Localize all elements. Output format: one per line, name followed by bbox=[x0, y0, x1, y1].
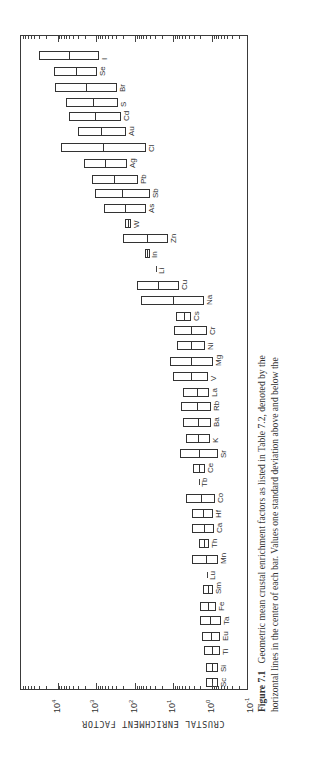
minor-tick bbox=[141, 686, 142, 689]
tick-label: 100 bbox=[205, 700, 216, 713]
element-label: Eu bbox=[222, 631, 230, 641]
minor-tick bbox=[25, 686, 26, 689]
bar-as bbox=[104, 204, 146, 213]
minor-tick bbox=[59, 36, 60, 39]
element-label: Rb bbox=[213, 400, 221, 410]
minor-tick bbox=[224, 686, 225, 689]
caption-text-2: horizontal lines in the center of each b… bbox=[269, 357, 280, 712]
minor-tick bbox=[139, 686, 140, 689]
bar-sr bbox=[180, 449, 218, 458]
bar-au bbox=[78, 127, 126, 136]
minor-tick bbox=[155, 36, 156, 39]
minor-tick bbox=[146, 36, 147, 39]
major-tick bbox=[96, 36, 97, 42]
bar-mean-line bbox=[69, 52, 70, 59]
minor-tick bbox=[116, 36, 117, 39]
minor-tick bbox=[46, 36, 47, 39]
bar-mean-line bbox=[103, 144, 104, 151]
bar-pb bbox=[92, 175, 138, 184]
minor-tick bbox=[200, 36, 201, 39]
bar-cr bbox=[174, 326, 207, 335]
major-tick bbox=[173, 683, 174, 689]
element-label: Se bbox=[99, 66, 107, 76]
minor-tick bbox=[102, 36, 103, 39]
minor-tick bbox=[150, 686, 151, 689]
minor-tick bbox=[102, 686, 103, 689]
element-label: Cs bbox=[193, 311, 201, 321]
chart-plot-area: ScSiTiEuTaFeSmLuMnThCaHfCoTbCeSrKBaRbLaV… bbox=[20, 35, 248, 690]
element-label: I bbox=[101, 57, 109, 59]
element-label: Mn bbox=[220, 552, 228, 563]
bar-mean-line bbox=[201, 495, 202, 502]
element-label: Ti bbox=[222, 648, 230, 654]
element-label: Au bbox=[128, 126, 136, 136]
minor-tick bbox=[78, 686, 79, 689]
minor-tick bbox=[194, 686, 195, 689]
minor-tick bbox=[108, 686, 109, 689]
minor-tick bbox=[232, 686, 233, 689]
element-label: Zn bbox=[170, 233, 178, 242]
bar-ce bbox=[193, 464, 205, 473]
bar-mean-line bbox=[86, 84, 87, 91]
bar-mean-line bbox=[114, 176, 115, 183]
minor-tick bbox=[39, 686, 40, 689]
bar-mean-line bbox=[173, 297, 174, 304]
tick-label: 104 bbox=[51, 700, 62, 713]
minor-tick bbox=[175, 686, 176, 689]
minor-tick bbox=[31, 686, 32, 689]
element-label: W bbox=[133, 220, 141, 228]
minor-tick bbox=[150, 36, 151, 39]
element-label: In bbox=[151, 251, 159, 258]
minor-tick bbox=[108, 36, 109, 39]
bar-mean-line bbox=[210, 617, 211, 624]
minor-tick bbox=[61, 36, 62, 39]
caption-text-1: Geometric mean crustal enrichment factor… bbox=[256, 355, 267, 663]
minor-tick bbox=[189, 36, 190, 39]
minor-tick bbox=[85, 686, 86, 689]
bar-mean-line bbox=[93, 99, 94, 106]
element-label: Cd bbox=[123, 110, 131, 120]
minor-tick bbox=[25, 36, 26, 39]
bar-se bbox=[54, 67, 97, 76]
minor-tick bbox=[177, 686, 178, 689]
minor-tick bbox=[98, 36, 99, 39]
bar-mean-line bbox=[122, 190, 123, 197]
tick-label: 102 bbox=[128, 700, 139, 713]
minor-tick bbox=[100, 686, 101, 689]
element-label: Cl bbox=[148, 144, 156, 152]
major-tick bbox=[58, 36, 59, 42]
minor-tick bbox=[162, 36, 163, 39]
bar-mean-line bbox=[206, 556, 207, 563]
minor-tick bbox=[232, 36, 233, 39]
element-label: Si bbox=[220, 664, 228, 671]
element-label: Li bbox=[158, 267, 166, 273]
major-tick bbox=[96, 683, 97, 689]
minor-tick bbox=[200, 686, 201, 689]
minor-tick bbox=[98, 686, 99, 689]
bar-ti bbox=[204, 646, 220, 655]
bar-mean-line bbox=[105, 160, 106, 167]
minor-tick bbox=[214, 686, 215, 689]
bar-v bbox=[173, 372, 208, 381]
minor-tick bbox=[185, 36, 186, 39]
minor-tick bbox=[182, 36, 183, 39]
bar-mean-line bbox=[191, 342, 192, 349]
bar-zn bbox=[123, 234, 168, 243]
bar-cs bbox=[176, 312, 191, 321]
minor-tick bbox=[224, 36, 225, 39]
minor-tick bbox=[139, 36, 140, 39]
element-label: K bbox=[212, 437, 220, 442]
minor-tick bbox=[189, 686, 190, 689]
minor-tick bbox=[64, 686, 65, 689]
minor-tick bbox=[194, 36, 195, 39]
bar-ca bbox=[192, 524, 214, 533]
minor-tick bbox=[64, 36, 65, 39]
element-label: Th bbox=[211, 538, 219, 547]
major-tick bbox=[58, 683, 59, 689]
minor-tick bbox=[61, 686, 62, 689]
bar-mean-line bbox=[212, 664, 213, 671]
minor-tick bbox=[46, 686, 47, 689]
element-label: S bbox=[120, 101, 128, 106]
element-label: Ag bbox=[129, 158, 137, 168]
minor-tick bbox=[66, 36, 67, 39]
